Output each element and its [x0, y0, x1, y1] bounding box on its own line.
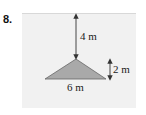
triangle-shape	[45, 59, 106, 79]
triangle-height-label: 2 m	[113, 63, 130, 75]
height-above-label: 4 m	[80, 30, 97, 42]
diagram-figure	[0, 0, 146, 115]
base-label: 6 m	[67, 81, 84, 93]
